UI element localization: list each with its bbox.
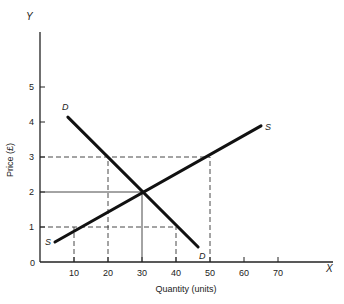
- x-tick-label: 60: [239, 268, 249, 278]
- x-tick-label: 70: [273, 268, 283, 278]
- y-tick-label: 4: [29, 117, 34, 127]
- supply-start-label: S: [45, 237, 51, 247]
- y-axis-letter: Y: [26, 11, 34, 22]
- origin-label: 0: [30, 258, 35, 268]
- x-axis-title: Quantity (units): [155, 284, 216, 294]
- y-axis-title: Price (£): [5, 143, 15, 177]
- x-tick-label: 30: [137, 268, 147, 278]
- supply-demand-chart: 10203040506070 12345 Y X 0 Quantity (uni…: [0, 0, 344, 304]
- y-tick-label: 5: [29, 82, 34, 92]
- x-tick-label: 50: [205, 268, 215, 278]
- x-axis-letter: X: [325, 263, 333, 274]
- curves: [55, 117, 261, 247]
- demand-end-label: D: [199, 251, 206, 261]
- x-tick-label: 20: [103, 268, 113, 278]
- supply-end-label: S: [265, 122, 271, 132]
- x-tick-label: 10: [69, 268, 79, 278]
- y-tick-label: 1: [29, 222, 34, 232]
- y-ticks: 12345: [29, 82, 45, 232]
- x-tick-label: 40: [171, 268, 181, 278]
- y-tick-label: 3: [29, 152, 34, 162]
- demand-curve: [68, 117, 198, 247]
- x-ticks: 10203040506070: [69, 257, 283, 278]
- demand-start-label: D: [62, 102, 69, 112]
- y-tick-label: 2: [29, 187, 34, 197]
- supply-curve: [55, 126, 261, 242]
